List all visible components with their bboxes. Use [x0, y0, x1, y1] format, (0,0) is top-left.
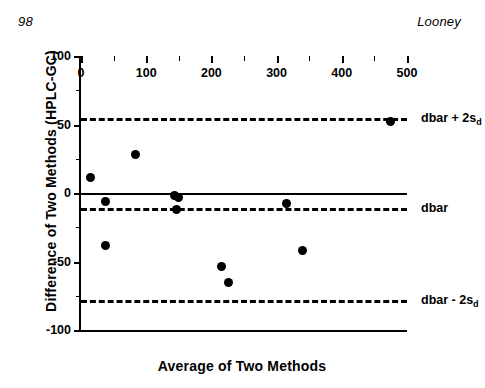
x-axis-minor-tick: [179, 56, 180, 61]
lower-limit-of-agreement: [81, 300, 407, 303]
data-point: [101, 241, 110, 250]
mean-difference-label: dbar: [421, 201, 448, 215]
lower-limit-of-agreement-label: dbar - 2sd: [421, 293, 479, 307]
data-point: [172, 205, 181, 214]
x-axis-tick-label: 200: [201, 66, 222, 80]
x-axis-tick-label: 300: [266, 66, 287, 80]
y-axis-tick: [74, 125, 81, 127]
y-axis-tick: [74, 193, 81, 195]
bland-altman-figure: Difference of Two Methods (HPLC-GC) 1005…: [0, 34, 485, 388]
y-axis-minor-tick: [76, 296, 81, 297]
data-point: [131, 150, 140, 159]
x-axis-tick-label: 0: [78, 66, 85, 80]
y-axis-tick-label: 50: [57, 118, 71, 132]
x-axis-tick-label: 100: [136, 66, 157, 80]
data-point: [217, 262, 226, 271]
data-point: [224, 278, 233, 287]
running-head-author: Looney: [417, 14, 461, 29]
page-number: 98: [18, 14, 33, 29]
x-axis-minor-tick: [309, 56, 310, 61]
data-point: [86, 173, 95, 182]
y-axis-minor-tick: [76, 159, 81, 160]
y-axis-tick-label: -50: [53, 255, 71, 269]
x-axis-tick: [277, 56, 279, 63]
x-axis-minor-tick: [374, 56, 375, 61]
x-axis-title: Average of Two Methods: [79, 358, 405, 374]
y-axis-tick-label: -100: [46, 323, 71, 337]
data-point: [298, 246, 307, 255]
y-axis-tick-label: 100: [50, 49, 71, 63]
y-axis-tick-label: 0: [64, 186, 71, 200]
x-axis-tick: [407, 56, 409, 63]
plot-area: 100500-50-1000100200300400500dbar + 2sdd…: [79, 56, 407, 332]
x-axis-tick: [211, 56, 213, 63]
x-axis-tick-label: 400: [331, 66, 352, 80]
x-axis-tick-label: 500: [397, 66, 418, 80]
running-head: 98 Looney: [0, 14, 485, 34]
x-axis-minor-tick: [114, 56, 115, 61]
y-axis-tick: [74, 262, 81, 264]
upper-limit-of-agreement: [81, 118, 407, 121]
x-axis-minor-tick: [244, 56, 245, 61]
y-axis-tick: [74, 330, 81, 332]
y-axis-title: Difference of Two Methods (HPLC-GC): [43, 36, 59, 326]
x-axis-tick: [342, 56, 344, 63]
data-point: [386, 117, 395, 126]
y-axis-minor-tick: [76, 227, 81, 228]
x-axis-tick: [81, 56, 83, 63]
zero-line: [81, 193, 407, 195]
data-point: [174, 193, 183, 202]
data-point: [101, 197, 110, 206]
y-axis-tick: [74, 56, 81, 58]
x-axis-tick: [146, 56, 148, 63]
upper-limit-of-agreement-label: dbar + 2sd: [421, 111, 482, 125]
mean-difference: [81, 208, 407, 211]
y-axis-minor-tick: [76, 90, 81, 91]
